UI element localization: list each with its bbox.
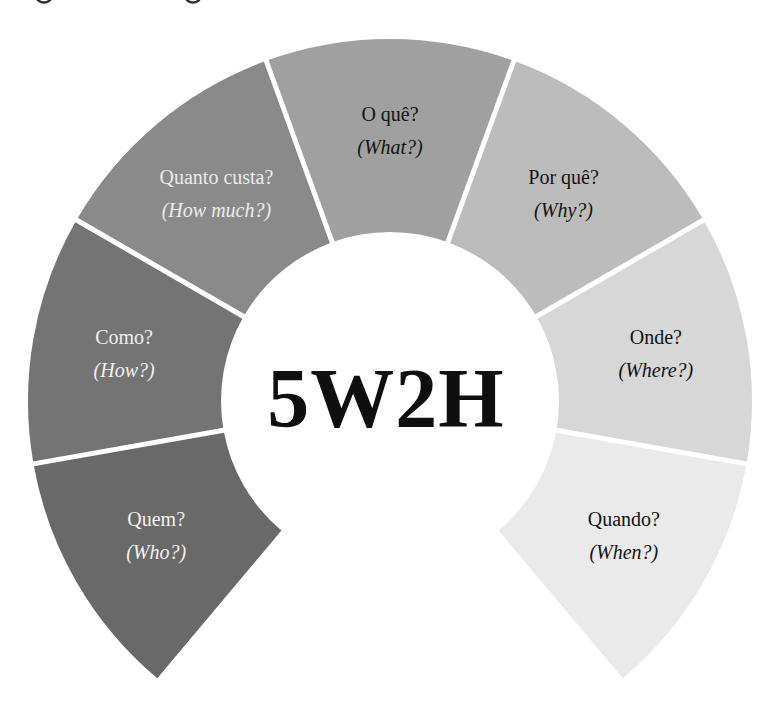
cropped-caption-fragments [37, 0, 200, 3]
center-title: 5W2H [267, 350, 504, 447]
caption-letter-fragment [37, 0, 51, 3]
caption-letter-fragment [186, 0, 200, 3]
figure-canvas: Quem?(Who?)Como?(How?)Quanto custa?(How … [0, 0, 773, 704]
segment-quando [499, 430, 747, 678]
segment-quem [34, 430, 282, 678]
